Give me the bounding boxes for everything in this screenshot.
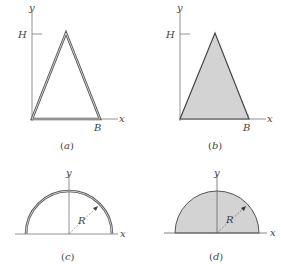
base-label: B (242, 122, 250, 133)
figure-c: y R x (c) (15, 167, 126, 262)
x-axis-label: x (270, 227, 276, 238)
radius-label: R (225, 214, 234, 225)
y-axis-label: y (65, 167, 72, 178)
x-axis-label: x (119, 113, 125, 124)
caption-a: (a) (60, 140, 74, 151)
figure-d: y R x (d) (164, 167, 276, 262)
y-axis-label: y (176, 2, 183, 13)
radius-arrowhead (93, 206, 98, 211)
caption-c: (c) (61, 251, 75, 262)
base-label: B (93, 122, 101, 133)
figure-b: y H x B (b) (165, 2, 273, 151)
radius-label: R (77, 215, 86, 226)
triangle-solid (180, 33, 249, 119)
figure-a: y H x B (a) (17, 2, 125, 151)
caption-d: (d) (209, 251, 223, 262)
x-axis-label: x (267, 113, 273, 124)
x-axis-label: x (120, 228, 126, 239)
triangle-wall-inner (32, 33, 100, 119)
figure-canvas: y H x B (a) y H x B (b) y R x (c) (0, 0, 281, 264)
y-axis-label: y (28, 2, 35, 13)
height-label: H (17, 29, 27, 40)
height-label: H (165, 29, 175, 40)
caption-b: (b) (208, 140, 222, 151)
y-axis-label: y (213, 167, 220, 178)
triangle-wall-outer (32, 33, 100, 119)
